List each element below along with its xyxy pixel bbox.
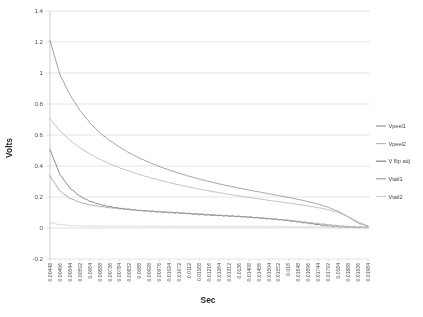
x-tick-label: 0.00976: [156, 263, 162, 282]
x-tick-label: 0.00688: [97, 263, 103, 282]
legend: Vpeel1Vpeel2V flip adjVtail1Vtail2: [376, 123, 410, 199]
x-tick-label: 0.01792: [325, 263, 331, 282]
series-line-v-flip-adj: [50, 150, 368, 228]
x-tick-label: 0.01312: [226, 263, 232, 282]
x-axis-title: Sec: [201, 295, 216, 305]
x-tick-label: 0.00928: [146, 263, 152, 282]
y-tick-label: 0.4: [34, 162, 43, 169]
x-tick-label: 0.00544: [67, 263, 73, 282]
x-axis-tick-labels: 0.004480.004960.005440.005920.00640.0068…: [47, 263, 371, 282]
x-tick-label: 0.00784: [116, 263, 122, 282]
x-tick-label: 0.00736: [107, 263, 113, 282]
series-line-vpeel1: [50, 40, 368, 226]
x-tick-label: 0.01024: [166, 263, 172, 282]
x-tick-label: 0.00448: [47, 263, 53, 282]
legend-label-v-flip-adj: V flip adj: [389, 158, 410, 164]
x-tick-label: 0.01168: [196, 263, 202, 281]
legend-label-vpeel2: Vpeel2: [389, 141, 406, 147]
x-tick-label: 0.01696: [305, 263, 311, 282]
y-tick-label: 0.6: [34, 131, 43, 138]
y-tick-label: 0: [40, 224, 44, 231]
x-tick-label: 0.00832: [126, 263, 132, 282]
x-tick-label: 0.01072: [176, 263, 182, 282]
line-chart: 1.41.210.80.60.40.20-0.2 0.004480.004960…: [0, 0, 423, 317]
chart-container: 1.41.210.80.60.40.20-0.2 0.004480.004960…: [0, 0, 423, 317]
x-tick-label: 0.016: [285, 263, 291, 276]
y-tick-label: 0.2: [34, 193, 43, 200]
x-tick-label: 0.01456: [256, 263, 262, 282]
y-axis-title: Volts: [4, 138, 14, 158]
x-tick-label: 0.01216: [206, 263, 212, 282]
x-tick-label: 0.01408: [246, 263, 252, 282]
x-tick-label: 0.01504: [266, 263, 272, 282]
legend-label-vtail2: Vtail2: [389, 194, 403, 200]
y-tick-label: 1.2: [34, 38, 43, 45]
x-tick-label: 0.01744: [315, 263, 321, 282]
x-tick-label: 0.01648: [295, 263, 301, 282]
y-tick-label: 0.8: [34, 100, 43, 107]
y-tick-label: -0.2: [32, 255, 43, 262]
x-tick-label: 0.01552: [275, 263, 281, 282]
x-tick-label: 0.01264: [216, 263, 222, 282]
x-tick-label: 0.0136: [236, 263, 242, 279]
x-tick-label: 0.00496: [57, 263, 63, 282]
x-tick-label: 0.01888: [345, 263, 351, 282]
legend-label-vpeel1: Vpeel1: [389, 123, 406, 129]
x-tick-label: 0.0112: [186, 263, 192, 278]
x-tick-label: 0.01984: [365, 263, 371, 282]
legend-label-vtail1: Vtail1: [389, 176, 403, 182]
x-tick-label: 0.00592: [77, 263, 83, 282]
plot-series: [50, 40, 368, 227]
y-tick-label: 1.4: [34, 7, 43, 14]
x-tick-label: 0.0184: [335, 263, 341, 279]
x-tick-label: 0.0064: [87, 263, 93, 279]
x-tick-label: 0.01936: [355, 263, 361, 282]
x-tick-label: 0.0088: [136, 263, 142, 279]
series-line-vpeel2: [50, 119, 368, 226]
series-line-vtail1: [50, 176, 368, 228]
y-axis-tick-labels: 1.41.210.80.60.40.20-0.2: [32, 7, 43, 262]
y-tick-label: 1: [40, 69, 44, 76]
